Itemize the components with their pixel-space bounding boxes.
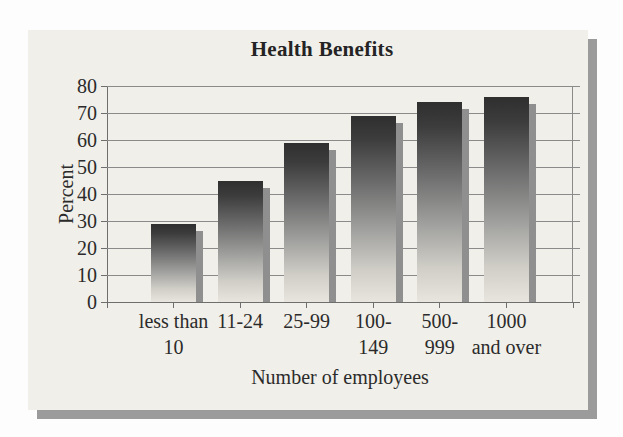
bar xyxy=(218,181,263,303)
y-tick-label: 10 xyxy=(49,264,97,286)
x-axis-title: Number of employees xyxy=(107,366,573,389)
y-tick-label: 70 xyxy=(49,102,97,124)
chart-title: Health Benefits xyxy=(28,37,588,62)
bar xyxy=(151,224,196,302)
y-axis-tick xyxy=(101,140,107,141)
y-axis-tick xyxy=(101,113,107,114)
bar xyxy=(417,102,462,302)
y-tick-label: 80 xyxy=(49,75,97,97)
y-axis-tick xyxy=(101,248,107,249)
x-axis-end-tick xyxy=(573,302,574,308)
plot-area: Number of employees 01020304050607080les… xyxy=(107,86,573,302)
bar-drop-shadow xyxy=(529,104,536,302)
y-axis-tick xyxy=(101,167,107,168)
y-tick-label: 20 xyxy=(49,237,97,259)
y-tick-label: 60 xyxy=(49,129,97,151)
bar xyxy=(484,97,529,302)
y-tick-label: 0 xyxy=(49,291,97,313)
bar-drop-shadow xyxy=(263,188,270,303)
y-tick-label: 40 xyxy=(49,183,97,205)
bar-drop-shadow xyxy=(462,109,469,302)
x-axis-line xyxy=(107,302,580,303)
bar xyxy=(351,116,396,302)
y-axis-tick xyxy=(101,194,107,195)
bar-drop-shadow xyxy=(329,150,336,302)
chart-panel: Health Benefits Percent Number of employ… xyxy=(28,30,588,410)
gridline xyxy=(107,86,580,87)
y-tick-label: 30 xyxy=(49,210,97,232)
bar xyxy=(284,143,329,302)
bar-drop-shadow xyxy=(396,123,403,302)
y-axis-tick xyxy=(101,275,107,276)
category-label: 1000 and over xyxy=(458,308,554,360)
y-axis-tick xyxy=(101,86,107,87)
page-root: Health Benefits Percent Number of employ… xyxy=(0,0,623,437)
bar-drop-shadow xyxy=(196,231,203,302)
x-axis-end-tick xyxy=(107,302,108,308)
y-axis-tick xyxy=(101,221,107,222)
y-tick-label: 50 xyxy=(49,156,97,178)
